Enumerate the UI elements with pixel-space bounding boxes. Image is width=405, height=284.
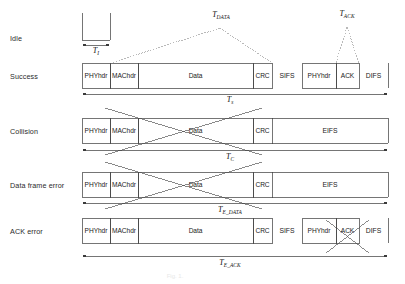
duration-label-t-data: TDATA xyxy=(196,10,246,19)
ack-error-ack-phyhdr-label: PHYhdr xyxy=(302,227,336,234)
ack-error-machdr-label: MAChdr xyxy=(110,227,138,234)
data-frame-error-machdr-label: MAChdr xyxy=(110,181,138,188)
row-label-collision: Collision xyxy=(10,127,38,136)
data-frame-error-eifs-label: EIFS xyxy=(272,181,388,188)
t-s-sub: s xyxy=(231,99,233,105)
row-label-idle: Idle xyxy=(10,34,22,43)
success-ack-label: ACK xyxy=(336,72,359,79)
row-label-data-frame-error: Data frame error xyxy=(10,181,64,190)
success-difs-label: DIFS xyxy=(359,72,388,79)
success-crc-label: CRC xyxy=(253,72,272,79)
collision-crc-label: CRC xyxy=(253,127,272,134)
ack-error-data-label: Data xyxy=(138,227,253,234)
collision-machdr-label: MAChdr xyxy=(110,127,138,134)
collision-data-label: Data xyxy=(138,127,253,134)
timing-diagram-canvas xyxy=(0,0,405,284)
ack-error-phyhdr-label: PHYhdr xyxy=(82,227,110,234)
duration-label-t-e-ack: TE_ACK xyxy=(198,258,262,267)
t-e-data-sub: E_DATA xyxy=(222,209,241,215)
row-label-success: Success xyxy=(10,72,38,81)
t-ack-cone xyxy=(336,27,359,63)
t-ack-sub: ACK xyxy=(344,13,355,19)
ack-error-crc-label: CRC xyxy=(253,227,272,234)
ack-error-sifs-label: SIFS xyxy=(272,227,302,234)
t-data-sub: DATA xyxy=(217,14,230,20)
figure-caption: Fig. 1. xyxy=(140,273,210,279)
data-frame-error-phyhdr-label: PHYhdr xyxy=(82,181,110,188)
t-c-sub: C xyxy=(230,156,234,162)
duration-label-t-e-data: TE_DATA xyxy=(195,205,265,214)
success-ack-phyhdr-label: PHYhdr xyxy=(302,72,336,79)
success-phyhdr-label: PHYhdr xyxy=(82,72,110,79)
ack-error-ack-label: ACK xyxy=(336,227,359,234)
duration-label-t-s: Ts xyxy=(210,95,250,104)
t-idle-sub: I xyxy=(97,50,99,56)
row-label-ack-error: ACK error xyxy=(10,227,43,236)
duration-label-t-idle: TI xyxy=(76,46,116,55)
collision-eifs-label: EIFS xyxy=(272,127,388,134)
idle-slot-box xyxy=(82,13,110,40)
data-frame-error-data-label: Data xyxy=(138,181,253,188)
t-data-base: T xyxy=(212,10,216,19)
ack-error-cross-mark xyxy=(326,220,369,253)
success-data-label: Data xyxy=(138,72,253,79)
t-data-cone xyxy=(111,28,272,63)
success-machdr-label: MAChdr xyxy=(110,72,138,79)
ack-error-difs-label: DIFS xyxy=(359,227,388,234)
collision-phyhdr-label: PHYhdr xyxy=(82,127,110,134)
duration-label-t-ack: TACK xyxy=(322,9,372,18)
t-e-ack-sub: E_ACK xyxy=(224,262,241,268)
data-frame-error-crc-label: CRC xyxy=(253,181,272,188)
duration-label-t-c: TC xyxy=(210,152,250,161)
success-sifs-label: SIFS xyxy=(272,72,302,79)
